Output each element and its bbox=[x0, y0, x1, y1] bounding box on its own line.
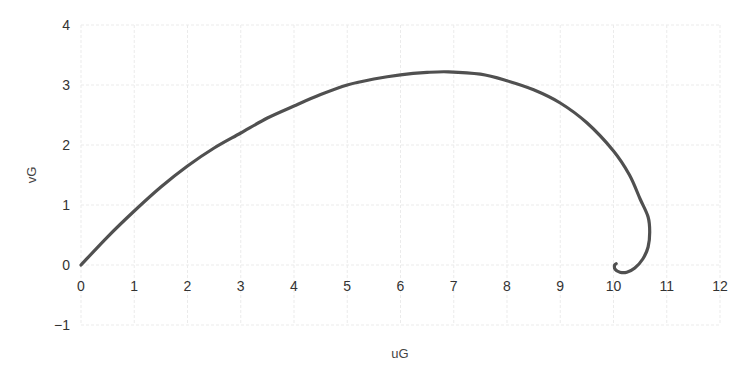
x-axis-ticks: 0123456789101112 bbox=[77, 278, 728, 294]
x-tick-label: 7 bbox=[450, 278, 458, 294]
x-tick-label: 10 bbox=[606, 278, 622, 294]
y-tick-label: 4 bbox=[62, 17, 70, 33]
y-tick-label: 2 bbox=[62, 137, 70, 153]
x-tick-label: 5 bbox=[343, 278, 351, 294]
x-tick-label: 12 bbox=[712, 278, 728, 294]
x-tick-label: 3 bbox=[237, 278, 245, 294]
x-tick-label: 9 bbox=[556, 278, 564, 294]
y-tick-label: 1 bbox=[62, 197, 70, 213]
x-tick-label: 6 bbox=[397, 278, 405, 294]
y-axis-label: vG bbox=[24, 167, 39, 184]
x-tick-label: 0 bbox=[77, 278, 85, 294]
y-tick-label: −1 bbox=[54, 317, 70, 333]
x-tick-label: 1 bbox=[130, 278, 138, 294]
y-axis-ticks: −101234 bbox=[54, 17, 70, 333]
chart: 0123456789101112 −101234 uG vG bbox=[0, 0, 741, 379]
x-tick-label: 8 bbox=[503, 278, 511, 294]
y-tick-label: 0 bbox=[62, 257, 70, 273]
y-tick-label: 3 bbox=[62, 77, 70, 93]
x-axis-label: uG bbox=[391, 346, 408, 361]
data-line bbox=[81, 72, 650, 273]
x-tick-label: 4 bbox=[290, 278, 298, 294]
x-tick-label: 2 bbox=[184, 278, 192, 294]
x-tick-label: 11 bbox=[659, 278, 674, 294]
